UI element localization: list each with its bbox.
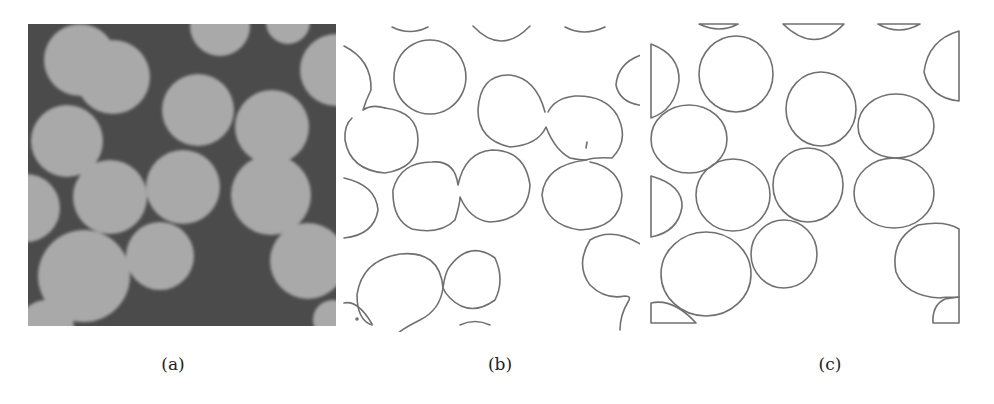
- caption-b: (b): [470, 354, 530, 374]
- micrograph-image: [28, 24, 336, 326]
- panel-b-edge-contours: [340, 20, 640, 332]
- panel-c-separated-contours: [648, 20, 964, 332]
- caption-a: (a): [143, 354, 203, 374]
- caption-c: (c): [800, 354, 860, 374]
- edge-contour-image: [340, 20, 640, 332]
- panel-a-micrograph: [28, 24, 336, 326]
- separated-contour-image: [648, 20, 964, 332]
